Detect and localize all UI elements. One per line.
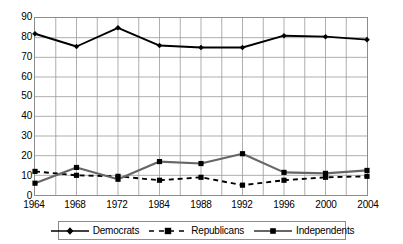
legend-swatch-independents: [253, 225, 293, 237]
plot-area: [34, 17, 368, 196]
x-tick-label: 2004: [348, 199, 388, 210]
y-tick-label: 90: [6, 12, 32, 22]
x-tick-label: 2000: [306, 199, 346, 210]
legend-item-independents[interactable]: Independents: [253, 225, 354, 237]
x-tick-label: 1968: [55, 199, 95, 210]
y-tick-label: 50: [6, 91, 32, 101]
x-tick-label: 1984: [139, 199, 179, 210]
series-layer: [35, 18, 367, 195]
y-tick-label: 80: [6, 32, 32, 42]
y-tick-label: 70: [6, 52, 32, 62]
legend-label-democrats: Democrats: [93, 225, 140, 236]
legend-label-republicans: Republicans: [191, 225, 244, 236]
legend-label-independents: Independents: [296, 225, 354, 236]
line-chart: 90 80 70 60 50 40 30 20 10 0 1964 1968 1…: [0, 0, 403, 244]
legend-swatch-republicans: [148, 225, 188, 237]
x-tick-label: 1972: [97, 199, 137, 210]
legend-item-republicans[interactable]: Republicans: [148, 225, 244, 237]
x-tick-label: 1992: [222, 199, 262, 210]
y-tick-label: 40: [6, 111, 32, 121]
y-tick-label: 30: [6, 131, 32, 141]
series-independents: [32, 151, 369, 186]
y-tick-label: 10: [6, 171, 32, 181]
series-republicans: [32, 169, 369, 188]
legend: Democrats Republicans Independents: [58, 221, 346, 240]
legend-swatch-democrats: [50, 225, 90, 237]
y-tick-label: 20: [6, 151, 32, 161]
y-tick-label: 60: [6, 72, 32, 82]
x-tick-label: 1988: [181, 199, 221, 210]
x-tick-label: 1996: [264, 199, 304, 210]
series-democrats: [32, 25, 370, 50]
x-tick-label: 1964: [14, 199, 54, 210]
legend-item-democrats[interactable]: Democrats: [50, 225, 140, 237]
